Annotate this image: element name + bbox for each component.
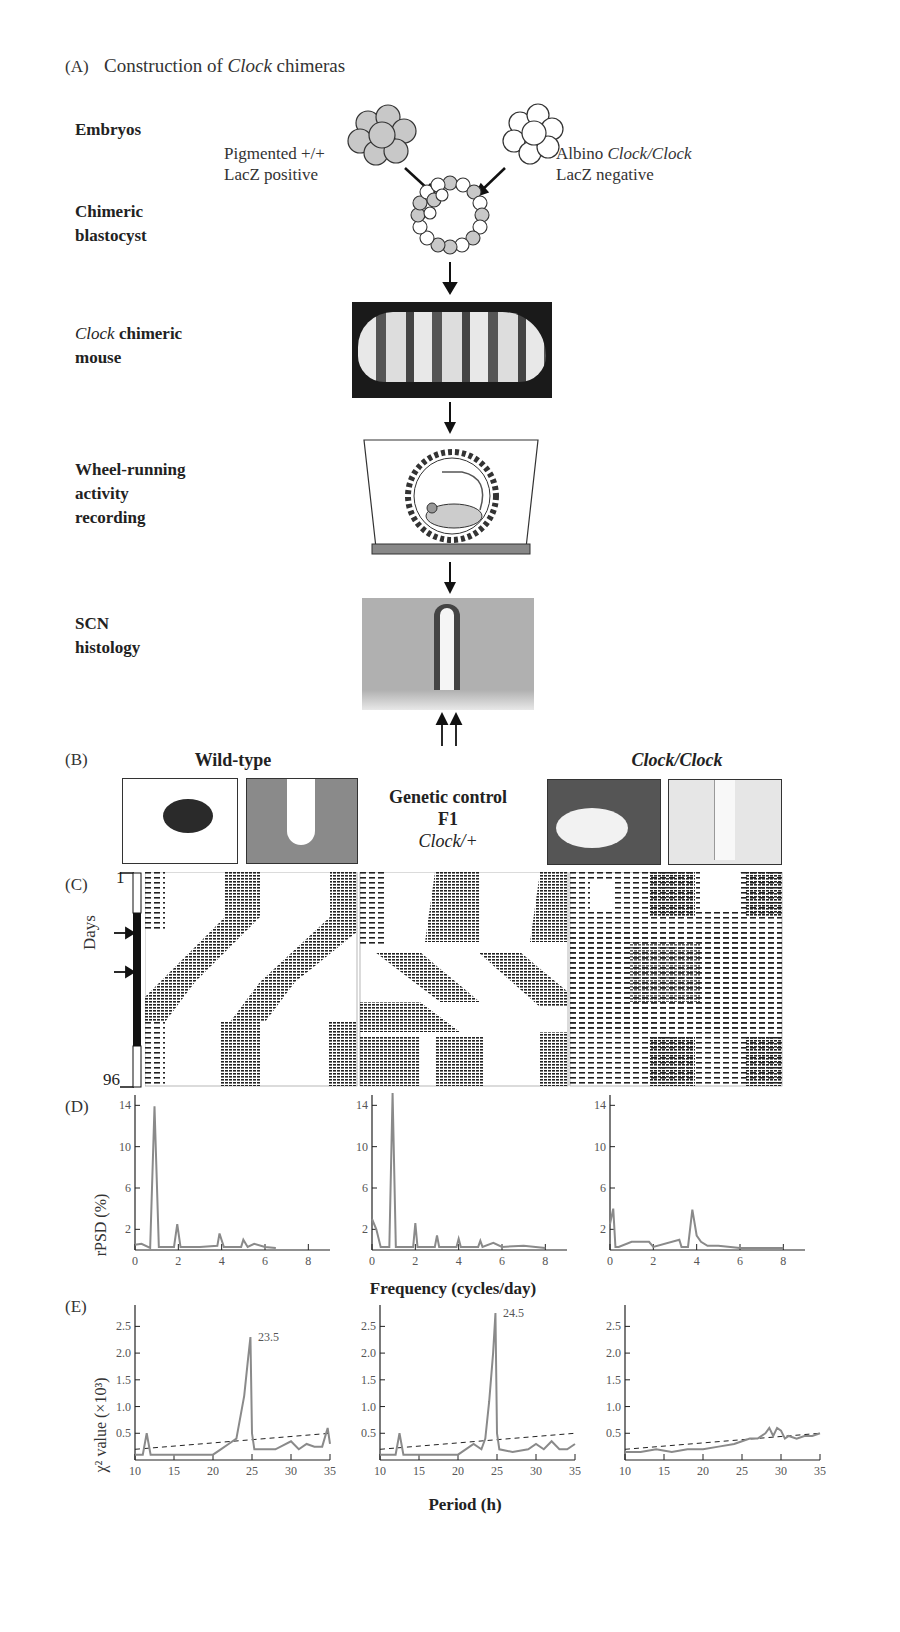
svg-text:0: 0 xyxy=(132,1254,138,1268)
svg-text:2.0: 2.0 xyxy=(116,1346,131,1360)
rpsd-axis-label: rPSD (%) xyxy=(92,1194,110,1257)
panel-a-title: Construction of Clock chimeras xyxy=(104,55,345,77)
svg-text:0: 0 xyxy=(369,1254,375,1268)
albino-embryo-icon xyxy=(503,104,563,164)
svg-text:30: 30 xyxy=(775,1464,787,1478)
svg-text:2.0: 2.0 xyxy=(606,1346,621,1360)
svg-text:10: 10 xyxy=(129,1464,141,1478)
svg-text:0.5: 0.5 xyxy=(606,1426,621,1440)
svg-text:2.5: 2.5 xyxy=(116,1319,131,1333)
svg-text:6: 6 xyxy=(125,1181,131,1195)
chart-d: 26101402468 xyxy=(356,1093,567,1268)
svg-text:1.5: 1.5 xyxy=(606,1373,621,1387)
period-axis-label: Period (h) xyxy=(428,1495,501,1514)
label-line: Wheel-running xyxy=(75,458,186,482)
svg-text:20: 20 xyxy=(452,1464,464,1478)
white-mouse xyxy=(556,808,628,848)
svg-text:1.0: 1.0 xyxy=(361,1400,376,1414)
ventricle xyxy=(714,780,735,860)
chart-d: 26101402468 xyxy=(594,1095,805,1268)
running-wheel-cage-icon xyxy=(362,438,542,558)
svg-text:10: 10 xyxy=(119,1140,131,1154)
svg-text:2.5: 2.5 xyxy=(361,1319,376,1333)
header-line: Clock/+ xyxy=(368,830,528,852)
step-scn-histology-label: SCN histology xyxy=(75,612,140,660)
svg-text:23.5: 23.5 xyxy=(258,1330,279,1344)
svg-text:4: 4 xyxy=(694,1254,700,1268)
svg-text:0.5: 0.5 xyxy=(361,1426,376,1440)
chiasm-region xyxy=(362,690,534,710)
svg-text:1.0: 1.0 xyxy=(116,1400,131,1414)
svg-text:2: 2 xyxy=(412,1254,418,1268)
chart-d: 26101402468 xyxy=(119,1095,330,1268)
svg-text:15: 15 xyxy=(168,1464,180,1478)
panel-c-letter: (C) xyxy=(65,875,88,895)
clock-scn-photo xyxy=(668,779,782,865)
embryo-diagram xyxy=(330,95,590,305)
panel-a-letter: (A) xyxy=(65,57,89,77)
svg-text:25: 25 xyxy=(491,1464,503,1478)
svg-text:14: 14 xyxy=(594,1098,606,1112)
title-text: Construction of xyxy=(104,55,228,76)
svg-text:20: 20 xyxy=(207,1464,219,1478)
label-line: SCN xyxy=(75,612,140,636)
step-embryos-label: Embryos xyxy=(75,118,141,142)
svg-text:1.5: 1.5 xyxy=(361,1373,376,1387)
title-gene-italic: Clock xyxy=(228,55,272,76)
note-line: Pigmented +/+ xyxy=(224,143,325,164)
mouse-body xyxy=(358,312,546,382)
note-line: LacZ positive xyxy=(224,164,325,185)
svg-text:2.0: 2.0 xyxy=(361,1346,376,1360)
black-mouse xyxy=(163,799,213,833)
svg-text:6: 6 xyxy=(600,1181,606,1195)
svg-text:6: 6 xyxy=(499,1254,505,1268)
frequency-axis-label: Frequency (cycles/day) xyxy=(370,1279,536,1298)
wildtype-header: Wild-type xyxy=(178,750,288,771)
svg-text:2.5: 2.5 xyxy=(606,1319,621,1333)
chimeric-mouse-photo xyxy=(352,302,552,398)
svg-text:15: 15 xyxy=(658,1464,670,1478)
label-line: Chimeric xyxy=(75,200,147,224)
clock-clock-header: Clock/Clock xyxy=(622,750,732,771)
chart-e: 0.51.01.52.02.510152025303523.5 xyxy=(116,1305,336,1478)
svg-text:2: 2 xyxy=(175,1254,181,1268)
step-wheel-running-label: Wheel-running activity recording xyxy=(75,458,186,530)
svg-text:8: 8 xyxy=(305,1254,311,1268)
svg-text:10: 10 xyxy=(356,1140,368,1154)
svg-text:6: 6 xyxy=(737,1254,743,1268)
svg-text:2: 2 xyxy=(125,1222,131,1236)
arrow-down-icon xyxy=(444,262,456,293)
label-italic: Clock xyxy=(75,324,115,343)
note-italic: Clock/Clock xyxy=(607,144,691,163)
svg-text:2: 2 xyxy=(600,1222,606,1236)
svg-text:8: 8 xyxy=(542,1254,548,1268)
svg-text:4: 4 xyxy=(219,1254,225,1268)
label-line: recording xyxy=(75,506,186,530)
panel-d-charts: rPSD (%) 2610140246826101402468261014024… xyxy=(80,1090,820,1300)
ventricle xyxy=(287,779,315,845)
svg-text:35: 35 xyxy=(569,1464,581,1478)
pigmented-embryo-note: Pigmented +/+ LacZ positive xyxy=(224,143,325,185)
actogram-plots xyxy=(145,872,785,1088)
svg-text:10: 10 xyxy=(374,1464,386,1478)
wildtype-mouse-photo xyxy=(122,778,238,864)
arrow-right-icon xyxy=(114,928,134,977)
label-rest: chimeric xyxy=(115,324,183,343)
label-line: histology xyxy=(75,636,140,660)
label-line: activity xyxy=(75,482,186,506)
scn-arrows-icon xyxy=(432,712,468,748)
label-line: blastocyst xyxy=(75,224,147,248)
svg-text:1.5: 1.5 xyxy=(116,1373,131,1387)
scn-histology-image xyxy=(362,598,534,710)
panel-b-letter: (B) xyxy=(65,750,88,770)
svg-text:20: 20 xyxy=(697,1464,709,1478)
svg-text:30: 30 xyxy=(285,1464,297,1478)
svg-text:35: 35 xyxy=(814,1464,826,1478)
svg-text:10: 10 xyxy=(594,1140,606,1154)
days-axis-label: Days xyxy=(80,915,100,950)
pigmented-embryo-icon xyxy=(348,105,416,165)
svg-text:24.5: 24.5 xyxy=(503,1306,524,1320)
svg-text:30: 30 xyxy=(530,1464,542,1478)
svg-text:8: 8 xyxy=(780,1254,786,1268)
actogram-clock-clock xyxy=(570,872,782,1086)
